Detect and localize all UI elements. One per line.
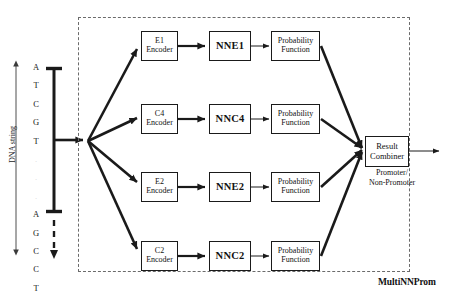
encoder-kind: Encoder	[146, 256, 173, 265]
dna-sequence: A T C G T . . . A G C C T	[29, 58, 43, 297]
encoder-box-c2[interactable]: C2 Encoder	[141, 241, 178, 271]
encoder-box-e1[interactable]: E1 Encoder	[141, 31, 178, 61]
sliding-window-arrow-icon	[50, 220, 58, 259]
dna-base: G	[29, 224, 43, 242]
neural-network-box-nne2[interactable]: NNE2	[209, 172, 251, 202]
neural-network-box-nnc2[interactable]: NNC2	[209, 241, 251, 271]
encoder-kind: Encoder	[146, 46, 173, 55]
dna-base: A	[29, 205, 43, 223]
dna-base-ellipsis: .	[29, 168, 43, 186]
encoder-box-e2[interactable]: E2 Encoder	[141, 172, 178, 202]
dna-base: C	[29, 95, 43, 113]
dna-base: T	[29, 279, 43, 297]
network-name: NNC2	[216, 250, 245, 262]
output-line1: Promoter/	[376, 168, 408, 177]
probability-function-box-2[interactable]: Probability Function	[271, 104, 320, 134]
neural-network-box-nne1[interactable]: NNE1	[209, 31, 251, 61]
output-label: Promoter/ Non-Promoter	[352, 168, 432, 188]
probability-line2: Function	[281, 256, 309, 265]
probability-function-box-4[interactable]: Probability Function	[271, 241, 320, 271]
dna-base: C	[29, 242, 43, 260]
combiner-line2: Combiner	[370, 152, 404, 162]
encoder-kind: Encoder	[146, 187, 173, 196]
result-combiner-box[interactable]: Result Combiner	[365, 136, 409, 167]
dna-base: T	[29, 132, 43, 150]
diagram-canvas: DNA string A T C G T . . . A G C C T E1 …	[0, 0, 463, 299]
probability-line2: Function	[281, 119, 309, 128]
dna-base: A	[29, 58, 43, 76]
network-name: NNE1	[216, 40, 244, 52]
neural-network-box-nnc4[interactable]: NNC4	[209, 104, 251, 134]
dna-base: C	[29, 260, 43, 278]
network-name: NNE2	[216, 181, 244, 193]
dna-string-label: DNA string	[8, 114, 17, 176]
probability-line2: Function	[281, 187, 309, 196]
dna-base: T	[29, 76, 43, 94]
system-name-label: MultiNNProm	[378, 277, 436, 287]
dna-base-ellipsis: .	[29, 150, 43, 168]
probability-line2: Function	[281, 46, 309, 55]
dna-base-ellipsis: .	[29, 187, 43, 205]
dna-base: G	[29, 113, 43, 131]
probability-function-box-1[interactable]: Probability Function	[271, 31, 320, 61]
probability-function-box-3[interactable]: Probability Function	[271, 172, 320, 202]
encoder-box-c4[interactable]: C4 Encoder	[141, 104, 178, 134]
encoder-kind: Encoder	[146, 119, 173, 128]
output-line2: Non-Promoter	[369, 178, 415, 187]
network-name: NNC4	[216, 113, 245, 125]
